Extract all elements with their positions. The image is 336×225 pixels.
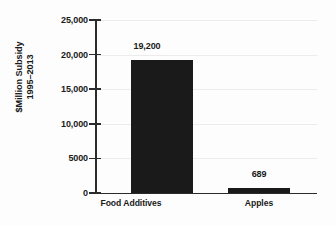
- y-tick-label-25000: 25,000: [14, 15, 88, 25]
- y-tick-label-10000: 10,000: [14, 119, 88, 129]
- gridline-20000: [95, 55, 317, 56]
- gridline-25000: [95, 20, 317, 21]
- gridline-15000: [95, 89, 317, 90]
- y-tick-20000: [89, 54, 101, 56]
- category-label-food-additives: Food Additives: [85, 198, 177, 208]
- value-label-food-additives: 19,200: [101, 41, 193, 51]
- gridline-10000: [95, 124, 317, 125]
- value-label-apples: 689: [213, 169, 305, 179]
- bar-food-additives: [131, 60, 193, 193]
- y-tick-label-5000: 5000: [14, 153, 88, 163]
- gridline-5000: [95, 158, 317, 159]
- y-tick-10000: [89, 123, 101, 125]
- y-axis-tick-labels: 25,000 20,000 15,000 10,000 5000 0: [10, 0, 88, 225]
- y-tick-label-20000: 20,000: [14, 50, 88, 60]
- y-axis-line: [95, 20, 97, 194]
- y-tick-label-15000: 15,000: [14, 84, 88, 94]
- category-label-apples: Apples: [213, 198, 305, 208]
- y-tick-15000: [89, 88, 101, 90]
- y-tick-5000: [89, 158, 101, 160]
- bar-chart-figure: $Million Subsidy 1995–2013 25,000 20,000…: [0, 0, 336, 225]
- x-axis-line: [95, 193, 317, 195]
- y-tick-25000: [89, 19, 101, 21]
- y-tick-label-0: 0: [14, 188, 88, 198]
